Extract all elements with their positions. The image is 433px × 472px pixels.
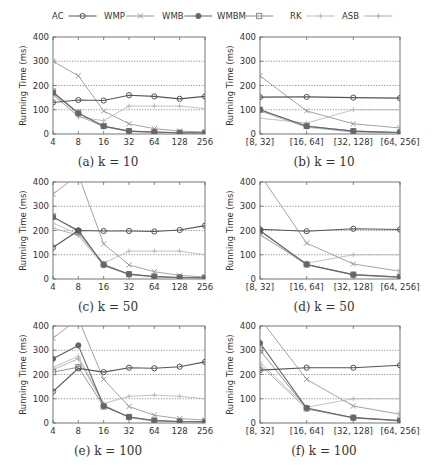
svg-text:WMP: WMP — [104, 11, 125, 21]
x-tick-label: 16 — [98, 282, 109, 292]
svg-text:AC: AC — [52, 11, 64, 21]
x-tick-label: 256 — [197, 282, 213, 292]
x-tick-label: 16 — [98, 426, 109, 436]
series-wmbm — [50, 214, 207, 281]
x-tick-label: 256 — [197, 426, 213, 436]
y-tick-label: 100 — [33, 394, 49, 404]
series-rk — [257, 233, 402, 266]
x-tick-label: [16, 64] — [290, 282, 324, 292]
legend-entry-asb: ASB — [342, 11, 392, 21]
legend-entry-ac: AC — [52, 11, 97, 21]
y-tick-label: 400 — [240, 321, 256, 331]
series-wmb — [50, 215, 207, 281]
y-tick-label: 100 — [33, 105, 49, 115]
caption-b: (b) k = 10 — [216, 155, 432, 169]
line-chart-b: 0100200300400[8, 32][16, 64][32, 128][64… — [216, 27, 432, 155]
y-tick-label: 100 — [33, 250, 49, 260]
chart-panel-e: 010020030040048163264128256Running Time … — [0, 316, 216, 462]
y-tick-label: 100 — [240, 105, 256, 115]
x-tick-label: 128 — [172, 137, 188, 147]
series-wmb — [257, 107, 402, 135]
y-axis-label: Running Time (ms) — [225, 190, 235, 270]
x-tick-label: 64 — [149, 137, 160, 147]
line-chart-e: 010020030040048163264128256Running Time … — [0, 316, 216, 444]
y-axis-label: Running Time (ms) — [18, 45, 28, 125]
chart-panel-a: 010020030040048163264128256Running Time … — [0, 27, 216, 173]
series-ac — [257, 226, 402, 234]
y-axis-label: Running Time (ms) — [225, 45, 235, 125]
line-chart-f: 0100200300400[8, 32][16, 64][32, 128][64… — [216, 316, 432, 444]
legend-entry-wmp: WMP — [104, 11, 154, 21]
svg-text:ASB: ASB — [342, 11, 359, 21]
x-tick-label: 32 — [124, 426, 135, 436]
y-tick-label: 400 — [240, 177, 256, 187]
y-tick-label: 200 — [33, 370, 49, 380]
line-chart-d: 0100200300400[8, 32][16, 64][32, 128][64… — [216, 172, 432, 300]
x-tick-label: [64, 256] — [380, 426, 419, 436]
chart-panel-f: 0100200300400[8, 32][16, 64][32, 128][64… — [216, 316, 432, 462]
line-chart-a: 010020030040048163264128256Running Time … — [0, 27, 216, 155]
series-rk — [50, 354, 207, 406]
y-axis-label: Running Time (ms) — [18, 190, 28, 270]
legend-entry-wmbm: WMBM — [217, 11, 273, 21]
series-ac — [50, 93, 207, 105]
caption-f: (f) k = 100 — [216, 444, 432, 458]
series-wmp — [50, 59, 207, 135]
x-tick-label: [8, 32] — [246, 426, 274, 436]
svg-text:RK: RK — [290, 11, 302, 21]
x-tick-label: [8, 32] — [246, 282, 274, 292]
y-tick-label: 400 — [33, 32, 49, 42]
chart-panel-b: 0100200300400[8, 32][16, 64][32, 128][64… — [216, 27, 432, 173]
x-tick-label: [32, 128] — [334, 426, 373, 436]
y-tick-label: 400 — [33, 177, 49, 187]
y-tick-label: 300 — [240, 56, 256, 66]
legend-entry-wmb: WMB — [162, 11, 212, 21]
caption-a: (a) k = 10 — [0, 155, 216, 169]
x-tick-label: [32, 128] — [334, 137, 373, 147]
y-tick-label: 200 — [33, 81, 49, 91]
x-tick-label: 128 — [172, 282, 188, 292]
series-ac — [50, 359, 207, 394]
caption-e: (e) k = 100 — [0, 444, 216, 458]
y-axis-label: Running Time (ms) — [225, 334, 235, 414]
x-tick-label: [64, 256] — [380, 137, 419, 147]
x-tick-label: 64 — [149, 282, 160, 292]
y-tick-label: 0 — [44, 129, 49, 139]
series-wmb — [50, 343, 207, 425]
x-tick-label: 64 — [149, 426, 160, 436]
series-wmp — [257, 73, 402, 130]
svg-text:WMB: WMB — [162, 11, 184, 21]
series-wmbm — [257, 348, 402, 424]
y-tick-label: 400 — [33, 321, 49, 331]
y-axis-label: Running Time (ms) — [18, 334, 28, 414]
x-tick-label: 16 — [98, 137, 109, 147]
x-tick-label: [16, 64] — [290, 137, 324, 147]
legend-entry-rk: RK — [290, 11, 335, 21]
y-tick-label: 300 — [33, 345, 49, 355]
x-tick-label: 8 — [76, 426, 81, 436]
y-tick-label: 200 — [240, 81, 256, 91]
y-tick-label: 0 — [44, 418, 49, 428]
x-tick-label: 4 — [50, 426, 55, 436]
caption-d: (d) k = 50 — [216, 300, 432, 314]
y-tick-label: 200 — [240, 370, 256, 380]
series-ac — [257, 94, 402, 100]
x-tick-label: 256 — [197, 137, 213, 147]
y-tick-label: 300 — [240, 345, 256, 355]
series-rk — [50, 221, 207, 266]
series-ac — [257, 363, 402, 373]
svg-text:WMBM: WMBM — [217, 11, 246, 21]
y-tick-label: 200 — [240, 226, 256, 236]
y-tick-label: 100 — [240, 250, 256, 260]
series-wmbm — [257, 107, 402, 135]
line-chart-c: 010020030040048163264128256Running Time … — [0, 172, 216, 300]
y-tick-label: 200 — [33, 226, 49, 236]
y-tick-label: 300 — [240, 201, 256, 211]
x-tick-label: 128 — [172, 426, 188, 436]
chart-panel-d: 0100200300400[8, 32][16, 64][32, 128][64… — [216, 172, 432, 318]
x-tick-label: [64, 256] — [380, 282, 419, 292]
x-tick-label: [32, 128] — [334, 282, 373, 292]
series-rk — [50, 91, 207, 123]
series-wmp — [50, 175, 207, 280]
x-tick-label: [8, 32] — [246, 137, 274, 147]
